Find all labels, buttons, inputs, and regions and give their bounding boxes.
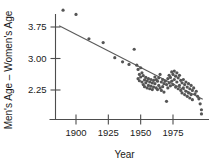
y-axis-title: Men's Age – Women's Age	[3, 10, 14, 129]
data-point	[191, 98, 194, 101]
data-point	[182, 78, 185, 81]
data-point	[74, 13, 77, 16]
data-point	[135, 64, 138, 67]
data-point	[192, 86, 195, 89]
data-point	[164, 80, 167, 83]
data-point	[140, 71, 143, 74]
chart-canvas: 2.253.003.751900192519501975YearMen's Ag…	[0, 0, 214, 162]
data-point	[197, 97, 200, 100]
label-layer: 2.253.003.751900192519501975YearMen's Ag…	[3, 10, 184, 160]
data-point	[175, 80, 178, 83]
data-point	[157, 76, 160, 79]
x-tick-label: 1925	[98, 127, 119, 138]
y-tick-label: 2.25	[28, 84, 47, 95]
data-point	[61, 9, 64, 12]
data-points-layer	[61, 9, 203, 116]
x-tick-label: 1900	[65, 127, 86, 138]
data-point	[158, 73, 161, 76]
data-point	[113, 56, 116, 59]
data-point	[195, 90, 198, 93]
x-tick-label: 1950	[130, 127, 151, 138]
data-point	[178, 74, 181, 77]
data-point	[156, 80, 159, 83]
data-point	[121, 60, 124, 63]
data-point	[171, 83, 174, 86]
data-point	[200, 108, 203, 111]
data-point	[127, 63, 130, 66]
data-point	[161, 85, 164, 88]
data-point	[162, 91, 165, 94]
data-point	[190, 93, 193, 96]
data-point	[87, 37, 90, 40]
data-point	[200, 112, 203, 115]
data-point	[199, 102, 202, 105]
data-point	[175, 71, 178, 74]
x-axis-title: Year	[114, 149, 135, 160]
data-point	[102, 41, 105, 44]
x-tick-label: 1975	[162, 127, 183, 138]
y-tick-label: 3.75	[28, 21, 47, 32]
data-point	[178, 84, 181, 87]
regression-line	[59, 26, 203, 100]
data-point	[133, 48, 136, 51]
data-point	[139, 66, 142, 69]
y-tick-label: 3.00	[28, 53, 47, 64]
data-point	[153, 82, 156, 85]
data-point	[182, 86, 185, 89]
data-point	[166, 86, 169, 89]
data-point	[190, 84, 193, 87]
data-point	[169, 76, 172, 79]
axis-layer	[50, 14, 210, 125]
data-point	[173, 78, 176, 81]
trendline-layer	[59, 26, 203, 100]
data-point	[165, 100, 168, 103]
scatter-chart: 2.253.003.751900192519501975YearMen's Ag…	[0, 0, 214, 162]
